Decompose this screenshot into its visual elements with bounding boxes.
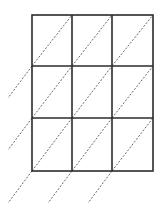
cell-diagonal xyxy=(112,15,153,66)
cell-diagonal xyxy=(32,66,72,118)
diagonal-extension xyxy=(88,171,112,203)
diagonal-extension xyxy=(8,118,32,150)
cell-diagonal xyxy=(72,118,112,171)
cell-diagonal xyxy=(32,118,72,171)
diagonal-extension xyxy=(8,66,32,98)
cell-diagonal xyxy=(72,15,112,66)
cell-diagonal xyxy=(32,15,72,66)
diagonal-dashed-lines xyxy=(8,15,153,203)
lattice-grid-diagram xyxy=(0,0,166,207)
diagonal-extension xyxy=(48,171,72,203)
diagonal-extension xyxy=(8,171,32,203)
cell-diagonal xyxy=(72,66,112,118)
cell-diagonal xyxy=(112,66,153,118)
cell-diagonal xyxy=(112,118,153,171)
